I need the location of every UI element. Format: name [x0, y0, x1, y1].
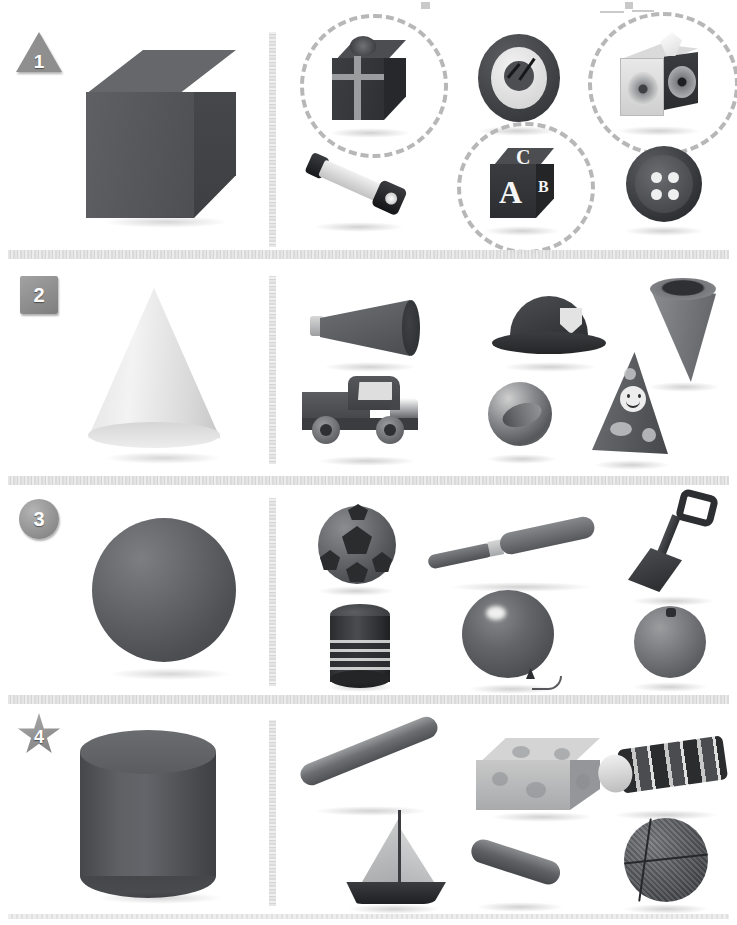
row-separator-4	[269, 720, 276, 906]
row-marker-2: 2	[16, 272, 62, 318]
object-grid-1: C A B	[296, 22, 737, 250]
object-grid-3	[296, 492, 737, 692]
object-baseball-bat[interactable]	[426, 504, 616, 588]
shape-shadow	[104, 216, 229, 228]
row-separator-2	[269, 276, 276, 464]
cylinder-solid	[80, 730, 216, 892]
object-alphabet-block[interactable]: C A B	[472, 136, 572, 232]
object-sailboat[interactable]	[334, 810, 454, 910]
row-separator-1	[269, 32, 276, 247]
object-marble-ball[interactable]	[476, 372, 568, 460]
button-icon	[612, 136, 716, 232]
row-number-label: 2	[16, 272, 62, 318]
object-megaphone[interactable]	[310, 282, 430, 368]
object-tissue-box[interactable]	[604, 28, 714, 132]
object-grid-4	[296, 712, 737, 910]
block-letter-side: B	[538, 178, 549, 196]
page-bottom-rule	[8, 914, 729, 919]
balloon-icon	[454, 588, 570, 690]
cube-solid	[86, 50, 236, 220]
row-marker-3: 3	[16, 496, 62, 542]
alphabet-block-icon: C A B	[472, 136, 572, 232]
kaleidoscope-icon	[596, 724, 736, 816]
object-soccer-ball[interactable]	[306, 500, 406, 592]
block-letter-top: C	[516, 146, 530, 169]
object-gift-box[interactable]	[316, 30, 424, 134]
megaphone-icon	[310, 282, 430, 368]
object-orange[interactable]	[620, 596, 720, 688]
object-tin-can[interactable]	[314, 596, 406, 688]
shovel-icon	[618, 492, 728, 602]
reference-shape-cube	[86, 50, 246, 230]
baseball-bat-icon	[426, 504, 616, 588]
row-divider-3	[8, 695, 729, 704]
object-gift-box-2[interactable]	[474, 726, 610, 818]
object-toy-truck[interactable]	[302, 366, 432, 462]
tin-can-icon	[314, 596, 406, 688]
marble-ball-icon	[476, 372, 568, 460]
object-balloon[interactable]	[454, 588, 570, 690]
object-kaleidoscope[interactable]	[596, 724, 736, 816]
sphere-solid	[92, 518, 240, 673]
object-party-hat[interactable]	[582, 352, 682, 466]
toy-truck-icon	[302, 366, 432, 462]
object-shovel[interactable]	[618, 492, 728, 602]
object-button[interactable]	[612, 136, 716, 232]
basketball-icon	[610, 814, 722, 910]
reference-shape-cone	[88, 286, 238, 466]
chalk-icon	[462, 824, 578, 908]
clock-icon	[464, 28, 572, 132]
row-2: 2	[0, 268, 737, 473]
sailboat-icon	[334, 810, 454, 910]
shape-shadow	[105, 452, 222, 464]
object-basketball[interactable]	[610, 814, 722, 910]
wrapped-box-icon	[474, 726, 610, 818]
object-chalk-stick[interactable]	[462, 824, 578, 908]
object-clock[interactable]	[464, 28, 572, 132]
row-separator-3	[269, 498, 276, 686]
orange-icon	[620, 596, 720, 688]
row-number-label: 4	[16, 712, 62, 758]
page-header-marks	[0, 0, 737, 14]
tissue-box-icon	[604, 28, 714, 132]
block-letter-front: A	[499, 174, 522, 211]
row-4: 4	[0, 712, 737, 910]
row-divider-1	[8, 250, 729, 259]
reference-shape-cylinder	[80, 730, 240, 906]
flashlight-icon	[300, 140, 418, 228]
row-marker-1: 1	[16, 30, 62, 76]
object-baton-rod[interactable]	[296, 720, 446, 812]
object-grid-2	[296, 268, 737, 473]
gift-box-icon	[316, 30, 424, 134]
shape-shadow	[98, 892, 223, 904]
row-1: 1	[0, 22, 737, 250]
cone-solid	[88, 286, 220, 451]
row-3: 3	[0, 492, 737, 692]
object-flashlight[interactable]	[300, 140, 418, 228]
row-marker-4: 4	[16, 712, 62, 758]
reference-shape-sphere	[92, 518, 248, 682]
worksheet-page: 1	[0, 0, 737, 925]
row-number-label: 1	[16, 30, 62, 76]
row-divider-2	[8, 476, 729, 485]
party-hat-icon	[582, 352, 682, 466]
shape-shadow	[109, 668, 231, 680]
row-number-label: 3	[16, 496, 62, 542]
soccer-ball-icon	[306, 500, 406, 592]
baton-icon	[296, 720, 446, 812]
